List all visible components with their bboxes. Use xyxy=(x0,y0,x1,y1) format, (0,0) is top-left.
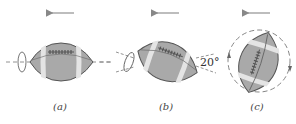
football-a xyxy=(30,43,93,81)
spin-loop-icon-b xyxy=(122,51,136,73)
tilt-angle-label-b: 20° xyxy=(200,56,220,69)
panel-b xyxy=(100,13,216,90)
rotation-arrow-icon-c-left xyxy=(227,52,231,58)
panel-label-a: (a) xyxy=(53,101,67,112)
panel-c xyxy=(227,13,292,98)
panel-label-c: (c) xyxy=(250,101,263,112)
panel-label-b: (b) xyxy=(159,101,173,112)
football-b xyxy=(131,33,203,90)
panel-a xyxy=(6,13,110,81)
